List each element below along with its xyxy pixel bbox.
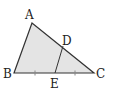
label-e: E (50, 77, 59, 91)
label-c: C (96, 67, 105, 81)
label-d: D (62, 34, 72, 48)
label-a: A (24, 8, 34, 22)
triangle-abc (14, 23, 94, 73)
label-b: B (3, 67, 12, 81)
triangle-diagram: A B C D E (0, 0, 114, 96)
